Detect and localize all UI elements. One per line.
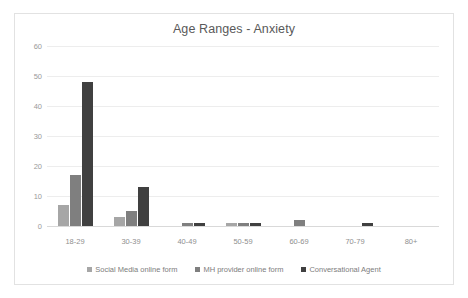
x-axis-tick-label-30-39: 30-39 — [103, 237, 159, 246]
bar-slot — [306, 46, 317, 226]
bar-slot — [226, 46, 237, 226]
bar-group-80+ — [383, 46, 439, 226]
bar-slot — [294, 46, 305, 226]
bar-slot — [238, 46, 249, 226]
bar-30-39-series-2[interactable] — [138, 187, 149, 226]
x-axis-tick-label-80+: 80+ — [383, 237, 439, 246]
bar-group-70-79 — [327, 46, 383, 226]
bar-50-59-series-1[interactable] — [238, 223, 249, 226]
y-axis-tick-label: 30 — [34, 132, 42, 141]
legend-label: Social Media online form — [95, 265, 177, 274]
gridline — [47, 226, 439, 227]
legend-item-0[interactable]: Social Media online form — [87, 265, 177, 274]
bar-group-50-59 — [215, 46, 271, 226]
legend-item-2[interactable]: Conversational Agent — [301, 265, 380, 274]
bar-slot — [182, 46, 193, 226]
legend-swatch-icon — [301, 267, 306, 272]
legend-swatch-icon — [87, 267, 92, 272]
bar-60-69-series-1[interactable] — [294, 220, 305, 226]
bar-group-30-39 — [103, 46, 159, 226]
bar-slot — [406, 46, 417, 226]
bar-slot — [282, 46, 293, 226]
legend-item-1[interactable]: MH provider online form — [195, 265, 283, 274]
bar-slot — [114, 46, 125, 226]
bar-slot — [338, 46, 349, 226]
y-axis-tick-label: 40 — [34, 102, 42, 111]
bar-70-79-series-2[interactable] — [362, 223, 373, 226]
bar-slot — [394, 46, 405, 226]
legend-swatch-icon — [195, 267, 200, 272]
x-axis-tick-label-50-59: 50-59 — [215, 237, 271, 246]
x-axis-tick-label-40-49: 40-49 — [159, 237, 215, 246]
chart-legend: Social Media online formMH provider onli… — [15, 265, 453, 274]
bar-slot — [70, 46, 81, 226]
bar-slot — [170, 46, 181, 226]
bar-group-60-69 — [271, 46, 327, 226]
x-axis-tick-labels: 18-2930-3940-4950-5960-6970-7980+ — [47, 237, 439, 246]
bar-50-59-series-2[interactable] — [250, 223, 261, 226]
bar-slot — [126, 46, 137, 226]
x-axis-tick-label-70-79: 70-79 — [327, 237, 383, 246]
bar-40-49-series-1[interactable] — [182, 223, 193, 226]
bar-18-29-series-1[interactable] — [70, 175, 81, 226]
bar-slot — [250, 46, 261, 226]
bar-18-29-series-0[interactable] — [58, 205, 69, 226]
bar-slot — [350, 46, 361, 226]
y-axis-tick-label: 60 — [34, 42, 42, 51]
bar-slot — [194, 46, 205, 226]
y-axis-tick-label: 20 — [34, 162, 42, 171]
bar-50-59-series-0[interactable] — [226, 223, 237, 226]
y-axis-tick-label: 10 — [34, 192, 42, 201]
bar-slot — [362, 46, 373, 226]
x-axis-tick-label-60-69: 60-69 — [271, 237, 327, 246]
bar-slot — [58, 46, 69, 226]
bar-slot — [138, 46, 149, 226]
bar-slot — [82, 46, 93, 226]
y-axis-tick-label: 0 — [38, 222, 42, 231]
legend-label: Conversational Agent — [309, 265, 380, 274]
chart-title: Age Ranges - Anxiety — [15, 22, 453, 36]
legend-label: MH provider online form — [203, 265, 283, 274]
plot-area: 0102030405060 — [47, 46, 439, 226]
bar-slot — [418, 46, 429, 226]
bar-group-18-29 — [47, 46, 103, 226]
bar-30-39-series-0[interactable] — [114, 217, 125, 226]
bar-40-49-series-2[interactable] — [194, 223, 205, 226]
bar-group-40-49 — [159, 46, 215, 226]
bar-18-29-series-2[interactable] — [82, 82, 93, 226]
y-axis-tick-label: 50 — [34, 72, 42, 81]
bars-layer — [47, 46, 439, 226]
chart-container: Age Ranges - Anxiety 0102030405060 18-29… — [14, 13, 454, 285]
x-axis-tick-label-18-29: 18-29 — [47, 237, 103, 246]
bar-30-39-series-1[interactable] — [126, 211, 137, 226]
